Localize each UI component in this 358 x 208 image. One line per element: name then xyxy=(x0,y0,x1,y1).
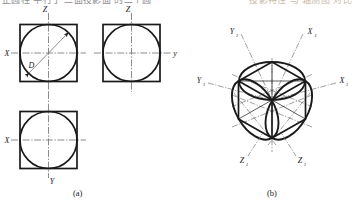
cube-label-top-right-subscript: 1 xyxy=(314,33,317,38)
technical-drawing-figure: Z X D Z y X Y xyxy=(0,0,358,208)
front-view-diameter-label: D xyxy=(28,61,35,70)
cube-label-bottom-right-letter: Z xyxy=(298,156,303,165)
cube-label-bottom-right: Z 1 xyxy=(298,156,306,167)
cube-label-mid-right: X 1 xyxy=(339,76,349,87)
front-view-z-label: Z xyxy=(43,5,48,14)
cube-label-mid-right-subscript: 1 xyxy=(346,82,349,87)
front-view-x-label: X xyxy=(4,49,11,58)
isometric-cube-group: Y 1 X 1 Y 1 X 1 Z 1 xyxy=(197,27,348,167)
leader-top-left-y1 xyxy=(241,34,272,100)
side-view-z-label: Z xyxy=(126,5,131,14)
top-view-x-label: X xyxy=(4,136,11,145)
caption-a: (a) xyxy=(73,188,82,198)
cube-label-bottom-left-subscript: 1 xyxy=(246,162,249,167)
cube-label-top-left-subscript: 1 xyxy=(236,33,239,38)
top-view-y-label: Y xyxy=(50,177,56,186)
top-view-group: X Y xyxy=(4,92,86,186)
cube-label-top-left: Y 1 xyxy=(230,27,238,38)
leader-top-right-x1 xyxy=(272,34,303,100)
side-view-y-label: y xyxy=(172,49,177,58)
cube-label-bottom-left-letter: Z xyxy=(240,156,245,165)
cube-label-mid-left: Y 1 xyxy=(197,76,205,87)
drawing-canvas: Z X D Z y X Y xyxy=(0,0,358,208)
side-view-group: Z y xyxy=(94,5,177,92)
front-view-group: Z X D xyxy=(4,5,86,92)
cube-label-top-right: X 1 xyxy=(307,27,317,38)
cube-label-mid-left-subscript: 1 xyxy=(203,82,206,87)
cube-label-bottom-left: Z 1 xyxy=(240,156,248,167)
cube-label-bottom-right-subscript: 1 xyxy=(304,162,307,167)
cube-label-mid-right-letter: X xyxy=(339,76,346,85)
cube-label-top-right-letter: X xyxy=(307,27,314,36)
caption-b: (b) xyxy=(267,188,277,198)
